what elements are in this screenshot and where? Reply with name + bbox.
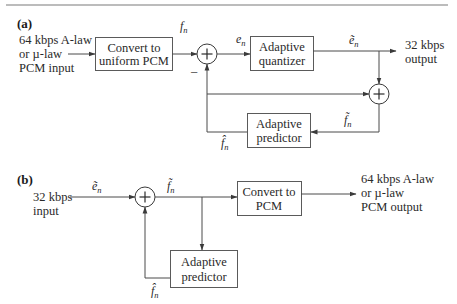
signal-f-tilde-n: f̃n: [344, 112, 352, 129]
svg-text:64 kbps A-law: 64 kbps A-law: [361, 172, 434, 186]
svg-text:PCM output: PCM output: [361, 200, 423, 214]
svg-text:Adaptive: Adaptive: [256, 117, 302, 131]
signal-e-tilde-n-b: ẽn: [92, 179, 102, 195]
signal-f-hat-n-b: f̂n: [151, 283, 159, 300]
svg-text:predictor: predictor: [181, 270, 227, 284]
panel-b-output-label: 64 kbps A-law or µ-law PCM output: [361, 172, 434, 214]
svg-text:PCM input: PCM input: [19, 61, 75, 75]
svg-text:or µ-law: or µ-law: [19, 47, 62, 61]
svg-text:input: input: [33, 204, 59, 218]
summing-junction-b: [135, 187, 155, 207]
adaptive-predictor-block-b: Adaptive predictor: [171, 251, 238, 288]
prediction-feedback-wire: [207, 64, 247, 132]
svg-text:PCM: PCM: [256, 199, 282, 213]
adpcm-diagram: (a) 64 kbps A-law or µ-law PCM input Con…: [0, 0, 457, 304]
minus-sign: –: [190, 64, 198, 78]
svg-text:quantizer: quantizer: [259, 54, 306, 68]
panel-a-output-label: 32 kbps output: [405, 38, 444, 66]
panel-b: (b) 32 kbps input ẽn f̃n Convert to PCM …: [17, 172, 434, 300]
svg-text:Adaptive: Adaptive: [181, 255, 227, 269]
svg-text:uniform PCM: uniform PCM: [99, 54, 169, 68]
svg-text:Adaptive: Adaptive: [259, 40, 305, 54]
adaptive-quantizer-block: Adaptive quantizer: [251, 37, 314, 71]
svg-text:64 kbps A-law: 64 kbps A-law: [19, 33, 92, 47]
svg-text:32 kbps: 32 kbps: [33, 190, 72, 204]
svg-text:output: output: [405, 52, 437, 66]
svg-text:32 kbps: 32 kbps: [405, 38, 444, 52]
panel-b-label: (b): [17, 172, 33, 187]
panel-b-input-label: 32 kbps input: [33, 190, 72, 218]
svg-text:Convert to: Convert to: [107, 41, 160, 55]
signal-e-n: en: [236, 32, 246, 48]
svg-text:or µ-law: or µ-law: [361, 186, 404, 200]
convert-to-pcm-block: Convert to PCM: [238, 182, 302, 216]
summing-junction-1: [197, 44, 217, 64]
summing-junction-2: [369, 84, 389, 104]
adaptive-predictor-block-a: Adaptive predictor: [248, 114, 311, 148]
svg-text:Convert to: Convert to: [242, 185, 295, 199]
signal-f-n: fn: [180, 19, 188, 35]
signal-e-tilde-n: ẽn: [349, 33, 359, 49]
panel-a-label: (a): [17, 16, 32, 31]
svg-text:predictor: predictor: [256, 131, 302, 145]
panel-a: (a) 64 kbps A-law or µ-law PCM input Con…: [17, 16, 444, 152]
prediction-feedback-b-wire: [145, 207, 170, 278]
convert-uniform-pcm-block: Convert to uniform PCM: [96, 38, 173, 71]
signal-f-hat-n: f̂n: [221, 135, 229, 152]
signal-f-tilde-n-b: f̃n: [167, 178, 175, 195]
